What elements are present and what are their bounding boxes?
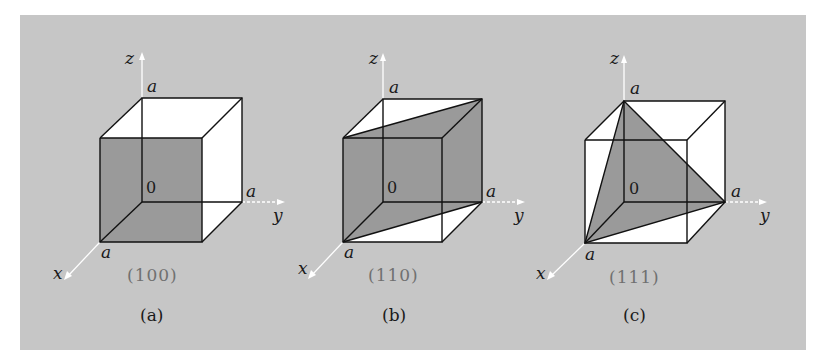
panel-caption: (c) <box>623 305 646 325</box>
miller-index-label: (110) <box>368 265 419 285</box>
panel-caption: (b) <box>382 305 406 325</box>
origin-label: 0 <box>387 178 397 197</box>
y-axis-label: y <box>513 205 524 225</box>
z-length-label: a <box>630 78 640 98</box>
z-length-label: a <box>389 77 399 97</box>
panel-b: z a 0 a y a x (110) (b) <box>298 48 525 325</box>
y-axis-label: y <box>759 205 770 225</box>
x-length-label: a <box>585 244 595 264</box>
y-length-label: a <box>486 181 496 201</box>
z-axis-label: z <box>609 48 620 68</box>
miller-index-label: (111) <box>609 267 660 287</box>
panel-caption: (a) <box>140 305 163 325</box>
x-axis <box>68 242 100 276</box>
z-axis-label: z <box>368 48 379 68</box>
origin-label: 0 <box>146 178 156 197</box>
x-axis <box>312 242 343 275</box>
z-axis-label: z <box>124 48 135 68</box>
x-axis <box>551 243 585 276</box>
z-length-label: a <box>147 76 157 96</box>
y-length-label: a <box>246 181 256 201</box>
x-axis-label: x <box>298 258 308 278</box>
y-length-label: a <box>731 181 741 201</box>
panel-c: z a 0 a y a x (111) (c) <box>536 48 770 325</box>
miller-index-label: (100) <box>127 265 178 285</box>
z-arrow-icon <box>380 53 386 61</box>
x-arrow-icon <box>547 271 555 280</box>
x-axis-label: x <box>53 263 63 283</box>
x-length-label: a <box>101 242 111 262</box>
origin-label: 0 <box>629 179 639 198</box>
y-axis-label: y <box>272 205 283 225</box>
z-arrow-icon <box>621 55 627 63</box>
z-arrow-icon <box>139 52 145 60</box>
x-length-label: a <box>344 242 354 262</box>
crystal-planes-figure: z a 0 a y a x (100) (a) z a <box>0 0 820 362</box>
panel-a: z a 0 a y a x (100) (a) <box>53 48 285 325</box>
x-axis-label: x <box>536 263 546 283</box>
